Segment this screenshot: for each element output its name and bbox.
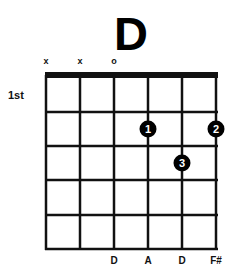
svg-text:3: 3 [179,157,185,169]
string-lines [46,75,216,250]
finger-dot-3: 3 [174,155,191,172]
fret-lines [45,112,218,249]
nut [45,72,218,78]
string-5-note: D [170,255,194,266]
string-4-note: A [136,255,160,266]
finger-dot-2: 2 [208,121,225,138]
fretboard-grid: 1 2 3 [0,0,238,279]
string-3-note: D [102,255,126,266]
finger-dot-1: 1 [140,121,157,138]
string-6-note: F# [204,255,228,266]
svg-text:2: 2 [213,123,219,135]
svg-text:1: 1 [145,123,151,135]
